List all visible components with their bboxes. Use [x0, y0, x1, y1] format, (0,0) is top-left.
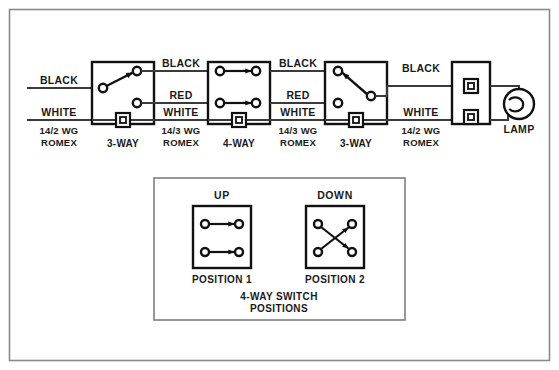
label-switch-3way-left: 3-WAY — [107, 138, 139, 149]
legend-terminal — [235, 248, 243, 256]
terminal-in-red — [216, 99, 224, 107]
label-cable-left-line2: ROMEX — [41, 137, 77, 148]
legend-terminal — [235, 220, 243, 228]
wiring-diagram-root: BLACK WHITE 14/2 WG ROMEX BLACK RED WHIT… — [0, 0, 559, 370]
legend-panel: UP POSITION 1 DOWN POSITION — [154, 178, 405, 320]
splice-connector-core-icon — [120, 117, 126, 123]
label-white-left: WHITE — [41, 106, 76, 118]
legend-terminal — [314, 220, 322, 228]
label-lamp: LAMP — [504, 123, 535, 135]
label-black-left: BLACK — [40, 74, 78, 86]
legend-label-position-1: POSITION 1 — [192, 274, 252, 285]
legend-heading-up: UP — [214, 189, 230, 201]
legend-terminal — [314, 248, 322, 256]
splice-connector-core-icon — [353, 117, 359, 123]
label-red-mid1: RED — [169, 89, 192, 101]
splice-connector-core-icon — [236, 117, 242, 123]
label-cable-left-line1: 14/2 WG — [40, 125, 79, 136]
lamp-symbol-icon — [504, 89, 534, 119]
terminal-in-black — [216, 67, 224, 75]
wiring-diagram-canvas: BLACK WHITE 14/2 WG ROMEX BLACK RED WHIT… — [0, 0, 559, 370]
legend-terminal — [348, 220, 356, 228]
legend-terminal — [348, 248, 356, 256]
label-red-mid2: RED — [286, 89, 309, 101]
label-black-mid1: BLACK — [162, 57, 200, 69]
label-white-mid1: WHITE — [163, 106, 198, 118]
label-cable-mid2-line2: ROMEX — [280, 137, 316, 148]
terminal-traveler-red — [133, 99, 141, 107]
terminal-out-red — [252, 99, 260, 107]
legend-caption-line2: POSITIONS — [250, 303, 308, 314]
label-cable-right-line2: ROMEX — [403, 137, 439, 148]
splice-connector-core-icon — [468, 83, 474, 89]
legend-switch-box-1 — [193, 206, 251, 268]
terminal-traveler-red — [334, 99, 342, 107]
label-cable-mid1-line2: ROMEX — [163, 137, 199, 148]
switch-4way — [208, 62, 270, 127]
lamp-outer-circle — [504, 89, 534, 119]
legend-terminal — [201, 248, 209, 256]
terminal-out-black — [252, 67, 260, 75]
splice-connector-core-icon — [468, 114, 474, 120]
terminal-common — [367, 92, 375, 100]
legend-label-position-2: POSITION 2 — [305, 274, 365, 285]
label-cable-right-line1: 14/2 WG — [402, 125, 441, 136]
terminal-common — [99, 84, 107, 92]
terminal-traveler-black — [133, 67, 141, 75]
label-cable-mid2-line1: 14/3 WG — [279, 125, 318, 136]
label-white-right: WHITE — [403, 106, 438, 118]
legend-heading-down: DOWN — [317, 189, 353, 201]
label-switch-4way: 4-WAY — [223, 138, 255, 149]
legend-caption-line1: 4-WAY SWITCH — [240, 291, 318, 302]
label-switch-3way-right: 3-WAY — [340, 138, 372, 149]
label-black-right: BLACK — [402, 62, 440, 74]
legend-terminal — [201, 220, 209, 228]
terminal-traveler-black — [334, 67, 342, 75]
label-cable-mid1-line1: 14/3 WG — [162, 125, 201, 136]
label-black-mid2: BLACK — [279, 57, 317, 69]
label-white-mid2: WHITE — [280, 106, 315, 118]
switch-3way-left — [92, 62, 154, 127]
